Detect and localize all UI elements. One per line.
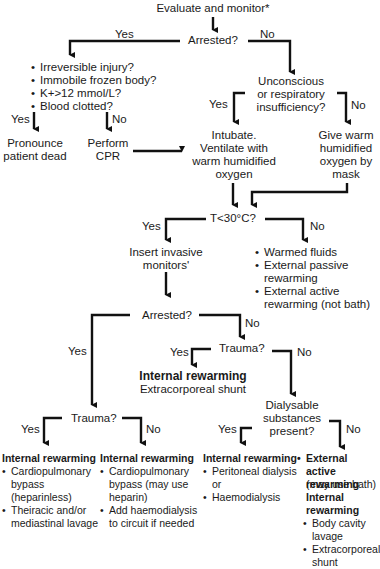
decision-trauma-1: Trauma?	[219, 342, 265, 355]
outcome-item: Peritoneal dialysis or	[202, 465, 297, 491]
node-give-oxygen: Give warm humidified oxygen by mask	[314, 129, 378, 181]
node-insert-monitors: Insert invasive monitors'	[125, 246, 207, 272]
outcome-trauma-yes-list: Cardiopulmonary bypass (heparinless) The…	[1, 465, 98, 530]
outcome-dialysable-yes-list: Peritoneal dialysis or Haemodialysis	[202, 465, 297, 504]
label-yes: Yes	[115, 28, 134, 41]
node-extracorporeal-shunt: Extracorporeal shunt	[130, 383, 256, 396]
label-yes: Yes	[11, 113, 30, 126]
label-no: No	[346, 423, 361, 436]
criteria-list: Irreversible injury? Immobile frozen bod…	[30, 61, 156, 113]
outcome-item: Theiracic and/or mediastinal lavage	[1, 504, 98, 530]
label-yes: Yes	[142, 220, 161, 233]
decision-unconscious: Unconscious or respiratory insufficiency…	[245, 75, 337, 114]
label-no: No	[310, 220, 325, 233]
outcome-internal-heading: Internal rewarming	[306, 491, 359, 517]
outcome-item: Add haemodialysis to circuit if needed	[99, 504, 197, 530]
outcome-item: Cardiopulmonary bypass (may use heparin)	[99, 465, 197, 504]
decision-arrested-2: Arrested?	[142, 309, 192, 322]
warming-measures-list: Warmed fluids External passive rewarming…	[254, 246, 370, 311]
label-no: No	[297, 346, 312, 359]
decision-trauma-2: Trauma?	[71, 412, 117, 425]
decision-arrested-1: Arrested?	[188, 34, 238, 47]
node-pronounce-dead: Pronounce patient dead	[0, 137, 70, 163]
label-no: No	[245, 317, 260, 330]
criteria-item: Immobile frozen body?	[30, 74, 156, 87]
node-internal-rewarming-heading: Internal rewarming	[130, 370, 256, 383]
outcome-trauma-no-list: Cardiopulmonary bypass (may use heparin)…	[99, 465, 197, 530]
label-yes: Yes	[218, 423, 237, 436]
decision-temperature: T<30°C?	[210, 212, 256, 225]
criteria-item: K+>12 mmol/L?	[30, 87, 156, 100]
node-intubate: Intubate. Ventilate with warm humidified…	[186, 129, 282, 181]
warming-item: Warmed fluids	[254, 246, 370, 259]
outcome-external-note: (may use bath)	[306, 478, 376, 491]
label-yes: Yes	[21, 423, 40, 436]
outcome-trauma-yes-heading: Internal rewarming	[2, 452, 96, 465]
outcome-item: Extracorporeal shunt	[302, 543, 380, 569]
outcome-item: Haemodialysis	[202, 491, 297, 504]
label-no: No	[112, 113, 127, 126]
decision-dialysable: Dialysable substances present?	[255, 399, 329, 438]
outcome-dialysable-no-list: Body cavity lavage Extracorporeal shunt	[302, 517, 380, 569]
warming-item: External active rewarming (not bath)	[254, 285, 370, 311]
outcome-dialysable-yes-heading: Internal rewarming	[203, 452, 297, 465]
label-yes: Yes	[170, 346, 189, 359]
outcome-item: Body cavity lavage	[302, 517, 380, 543]
label-no: No	[146, 423, 161, 436]
outcome-trauma-no-heading: Internal rewarming	[100, 452, 194, 465]
warming-item: External passive rewarming	[254, 259, 370, 285]
outcome-item: Cardiopulmonary bypass (heparinless)	[1, 465, 98, 504]
label-no: No	[260, 28, 275, 41]
criteria-item: Blood clotted?	[30, 100, 156, 113]
criteria-item: Irreversible injury?	[30, 61, 156, 74]
label-yes: Yes	[68, 345, 87, 358]
label-no: No	[351, 99, 366, 112]
node-evaluate-monitor: Evaluate and monitor*	[150, 2, 276, 15]
node-perform-cpr: Perform CPR	[83, 137, 133, 163]
label-yes: Yes	[209, 98, 228, 111]
